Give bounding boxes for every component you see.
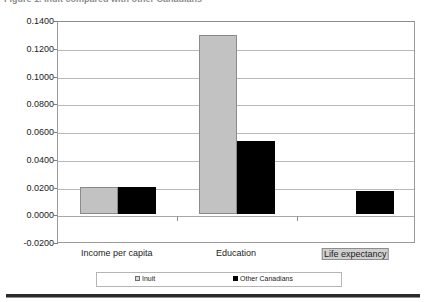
- bar-inuit-income-per-capita: [80, 187, 118, 215]
- y-axis-tick-label: 0.0600: [2, 127, 54, 137]
- gridline: [58, 216, 414, 217]
- category-separator: [297, 216, 298, 221]
- y-axis-tick-label: 0.0200: [2, 183, 54, 193]
- y-axis-tick-mark: [54, 243, 58, 244]
- y-axis-tick-label: 0.1200: [2, 44, 54, 54]
- x-axis-label: Life expectancy: [322, 248, 389, 260]
- legend-entry: Inuit: [135, 275, 155, 282]
- x-axis-labels: Income per capitaEducationLife expectanc…: [57, 248, 415, 264]
- plot-area: [57, 21, 415, 243]
- legend-label: Other Canadians: [240, 275, 293, 282]
- y-axis-tick-label: -0.0200: [2, 238, 54, 248]
- x-axis-label: Education: [216, 248, 256, 258]
- legend-entry: Other Canadians: [233, 275, 293, 282]
- x-axis-label: Income per capita: [81, 248, 153, 258]
- legend-swatch-icon: [135, 276, 140, 281]
- bar-other-canadians-education: [237, 141, 275, 215]
- legend-label: Inuit: [142, 275, 155, 282]
- legend-swatch-icon: [233, 276, 238, 281]
- y-axis: 0.14000.12000.10000.08000.06000.04000.02…: [0, 21, 54, 243]
- y-axis-tick-label: 0.0000: [2, 210, 54, 220]
- y-axis-tick-label: 0.1000: [2, 72, 54, 82]
- footer-rule-shadow: [6, 297, 420, 298]
- y-axis-tick-label: 0.0400: [2, 155, 54, 165]
- category-separator: [177, 216, 178, 221]
- y-axis-tick-label: 0.1400: [2, 16, 54, 26]
- bar-other-canadians-income-per-capita: [118, 187, 156, 215]
- bar-chart: 0.14000.12000.10000.08000.06000.04000.02…: [0, 12, 426, 284]
- bar-inuit-education: [199, 35, 237, 214]
- chart-legend: InuitOther Canadians: [96, 272, 342, 287]
- y-axis-tick-label: 0.0800: [2, 99, 54, 109]
- chart-title-text: Figure 1. Inuit compared with other Cana…: [0, 0, 426, 4]
- chart-title-clipped: Figure 1. Inuit compared with other Cana…: [0, 0, 426, 4]
- bar-other-canadians-life-expectancy: [356, 191, 394, 215]
